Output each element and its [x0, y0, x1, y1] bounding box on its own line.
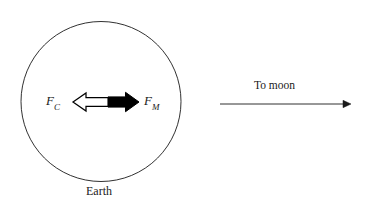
force-label-fm: FM [144, 94, 159, 111]
force-arrow-right-solid [108, 92, 139, 111]
to-moon-label: To moon [254, 80, 295, 92]
force-label-fc: FC [46, 94, 60, 111]
force-label-fc-subscript: C [54, 102, 60, 112]
physics-diagram-figure: FC FM Earth To moon [0, 0, 367, 214]
earth-caption: Earth [86, 185, 112, 197]
force-label-fm-subscript: M [152, 102, 160, 112]
to-moon-arrow [220, 100, 351, 107]
force-arrow-left-hollow [73, 93, 109, 111]
force-label-fc-base: F [46, 93, 54, 108]
force-label-fm-base: F [144, 93, 152, 108]
